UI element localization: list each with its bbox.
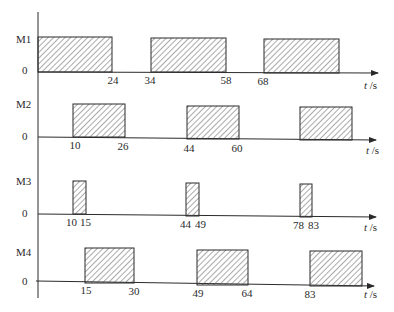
- pulse-m2-1: [73, 104, 125, 137]
- row-label-m3: M3: [16, 176, 31, 187]
- tick-label: 44: [184, 143, 195, 154]
- row-m3: [38, 181, 376, 217]
- time-unit-label-m2: t /s: [366, 145, 379, 156]
- zero-label-m1: 0: [22, 65, 28, 76]
- tick-label: 10: [66, 217, 77, 228]
- tick-label: 83: [305, 289, 316, 300]
- pulse-m1-1: [38, 37, 112, 72]
- tick-label: 49: [193, 288, 204, 299]
- tick-label: 30: [129, 286, 140, 297]
- row-label-m2: M2: [16, 99, 31, 110]
- pulse-m1-3: [264, 39, 339, 73]
- zero-label-m3: 0: [22, 208, 28, 219]
- zero-label-m2: 0: [22, 131, 28, 142]
- timing-diagram: [0, 0, 394, 312]
- pulse-m3-2: [186, 183, 199, 216]
- tick-label: 78: [293, 220, 304, 231]
- row-label-m4: M4: [16, 247, 31, 258]
- row-m2: [38, 104, 376, 140]
- pulse-m4-1: [85, 248, 134, 283]
- tick-label: 15: [80, 217, 91, 228]
- pulse-m3-1: [73, 181, 86, 214]
- row-label-m1: M1: [16, 34, 31, 45]
- tick-label: 64: [242, 288, 253, 299]
- tick-label: 24: [108, 75, 119, 86]
- pulse-m4-2: [197, 250, 248, 285]
- tick-label: 58: [221, 75, 232, 86]
- tick-label: 49: [195, 219, 206, 230]
- tick-label: 15: [81, 285, 92, 296]
- zero-label-m4: 0: [22, 276, 28, 287]
- tick-label: 68: [258, 76, 269, 87]
- row-m4: [36, 248, 374, 286]
- row-m1: [38, 37, 378, 73]
- pulse-m4-3: [310, 251, 362, 286]
- tick-label: 34: [145, 75, 156, 86]
- pulse-m3-3: [300, 184, 312, 217]
- tick-label: 10: [70, 140, 81, 151]
- tick-label: 83: [308, 220, 319, 231]
- tick-label: 60: [232, 143, 243, 154]
- tick-label: 26: [118, 141, 129, 152]
- time-unit-label-m3: t /s: [364, 222, 377, 233]
- pulse-m2-2: [187, 106, 239, 139]
- time-unit-label-m4: t /s: [364, 289, 377, 300]
- pulse-m2-3: [300, 107, 352, 140]
- pulse-m1-2: [151, 38, 226, 72]
- time-unit-label-m1: t /s: [364, 80, 377, 91]
- tick-label: 44: [180, 219, 191, 230]
